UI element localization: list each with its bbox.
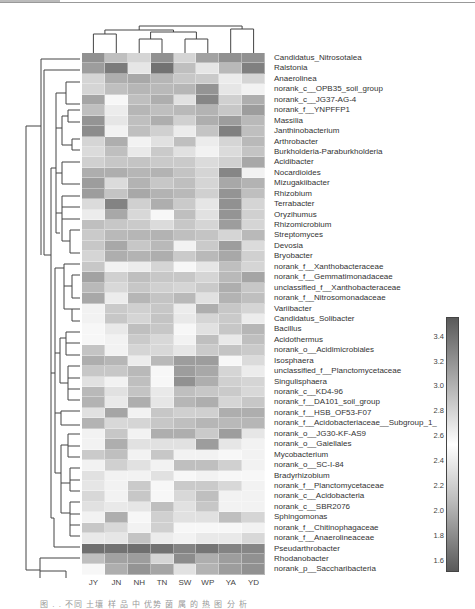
heatmap-cell [174, 314, 197, 324]
heatmap-cell [151, 544, 174, 554]
heatmap-cell [105, 481, 128, 491]
heatmap-cell [219, 533, 242, 543]
heatmap-cell [174, 397, 197, 407]
heatmap-cell [105, 147, 128, 157]
heatmap-cell [219, 168, 242, 178]
row-label: norank_c__KD4-96 [274, 387, 437, 397]
row-label: norank_f__Xanthobacteraceae [274, 262, 437, 272]
heatmap-cell [219, 481, 242, 491]
heatmap-cell [128, 241, 151, 251]
row-label: norank_c__SBR2076 [274, 502, 437, 512]
heatmap-cell [128, 439, 151, 449]
heatmap-cell [128, 481, 151, 491]
heatmap-cell [242, 533, 265, 543]
heatmap-cell [219, 220, 242, 230]
heatmap-cell [128, 324, 151, 334]
heatmap-cell [128, 251, 151, 261]
heatmap-cell [105, 429, 128, 439]
heatmap-cell [82, 126, 105, 136]
heatmap-cell [196, 335, 219, 345]
top-rule [0, 2, 475, 3]
row-label: norank_f__Gemmatimonadaceae [274, 272, 437, 282]
row-label: Candidatus_Nitrosotalea [274, 53, 437, 63]
heatmap-cell [219, 272, 242, 282]
heatmap-cell [242, 304, 265, 314]
row-labels: Candidatus_NitrosotaleaRalstoniaAnaeroli… [274, 53, 437, 575]
heatmap-cell [196, 95, 219, 105]
heatmap-cell [82, 63, 105, 73]
heatmap-cell [105, 544, 128, 554]
heatmap-cell [174, 523, 197, 533]
heatmap-cell [82, 418, 105, 428]
heatmap-cell [82, 502, 105, 512]
heatmap-cell [242, 512, 265, 522]
heatmap-cell [219, 283, 242, 293]
heatmap-cell [219, 345, 242, 355]
heatmap-cell [105, 335, 128, 345]
heatmap-cell [151, 450, 174, 460]
heatmap-cell [82, 304, 105, 314]
heatmap-cell [151, 63, 174, 73]
row-label: norank_f__Nitrosomonadaceae [274, 293, 437, 303]
heatmap-cell [128, 105, 151, 115]
heatmap-cell [105, 450, 128, 460]
colorbar-tick-label: 2.6 [434, 431, 444, 440]
heatmap-cell [174, 481, 197, 491]
heatmap-cell [174, 564, 197, 574]
heatmap-cell [174, 283, 197, 293]
heatmap-cell [174, 137, 197, 147]
heatmap-cell [82, 408, 105, 418]
heatmap-cell [219, 210, 242, 220]
heatmap-cell [151, 168, 174, 178]
heatmap-cell [151, 262, 174, 272]
heatmap-cell [82, 199, 105, 209]
heatmap-cell [242, 272, 265, 282]
heatmap-cell [196, 283, 219, 293]
heatmap-cell [242, 147, 265, 157]
heatmap-cell [82, 157, 105, 167]
heatmap-cell [151, 74, 174, 84]
heatmap-cell [128, 450, 151, 460]
heatmap-cell [151, 126, 174, 136]
colorbar-tick-label: 2.8 [434, 406, 444, 415]
heatmap-cell [82, 523, 105, 533]
heatmap-cell [174, 439, 197, 449]
heatmap-cell [219, 262, 242, 272]
heatmap-cell [105, 345, 128, 355]
heatmap-cell [219, 324, 242, 334]
row-label: Arthrobacter [274, 137, 437, 147]
heatmap-cell [151, 471, 174, 481]
heatmap-cell [174, 387, 197, 397]
heatmap-cell [219, 137, 242, 147]
heatmap-cell [219, 199, 242, 209]
colorbar-tick-label: 3.4 [434, 331, 444, 340]
heatmap-cell [196, 199, 219, 209]
row-label: Streptomyces [274, 230, 437, 240]
heatmap-cell [128, 262, 151, 272]
heatmap-cell [219, 241, 242, 251]
heatmap-cell [82, 116, 105, 126]
heatmap-cell [242, 429, 265, 439]
row-label: Devosia [274, 241, 437, 251]
row-label: Acidothermus [274, 335, 437, 345]
heatmap-grid [82, 53, 265, 575]
heatmap-cell [174, 418, 197, 428]
heatmap-cell [242, 523, 265, 533]
heatmap-cell [128, 554, 151, 564]
heatmap-cell [242, 418, 265, 428]
heatmap-cell [128, 408, 151, 418]
heatmap-cell [82, 105, 105, 115]
heatmap-cell [242, 168, 265, 178]
heatmap-cell [242, 74, 265, 84]
heatmap-cell [196, 168, 219, 178]
heatmap-cell [82, 491, 105, 501]
heatmap-cell [151, 283, 174, 293]
heatmap-cell [196, 408, 219, 418]
heatmap-cell [151, 230, 174, 240]
heatmap-cell [196, 116, 219, 126]
heatmap-cell [174, 53, 197, 63]
heatmap-cell [82, 564, 105, 574]
heatmap-cell [151, 324, 174, 334]
top-header-fragment [0, 0, 60, 2]
heatmap-cell [242, 230, 265, 240]
